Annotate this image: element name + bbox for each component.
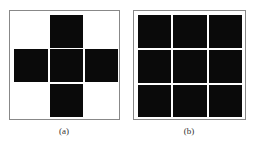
cell-b-0-1 [173, 15, 207, 48]
cell-b-0-0 [138, 15, 171, 48]
caption-a: (a) [44, 126, 84, 136]
cell-b-1-1 [173, 50, 207, 83]
cell-a-1-0 [14, 49, 48, 82]
cell-b-0-2 [209, 15, 242, 48]
cell-a-2-1 [50, 84, 83, 117]
cell-a-1-2 [85, 49, 118, 82]
cell-b-2-1 [173, 85, 207, 117]
figure-b-frame [133, 10, 246, 120]
cell-b-2-2 [209, 85, 242, 117]
cell-b-2-0 [138, 85, 171, 117]
caption-b: (b) [169, 126, 209, 136]
cell-a-0-1 [50, 15, 83, 48]
figure-a-frame [9, 10, 120, 120]
cell-b-1-2 [209, 50, 242, 83]
cell-b-1-0 [138, 50, 171, 83]
cell-a-1-1 [50, 49, 83, 82]
